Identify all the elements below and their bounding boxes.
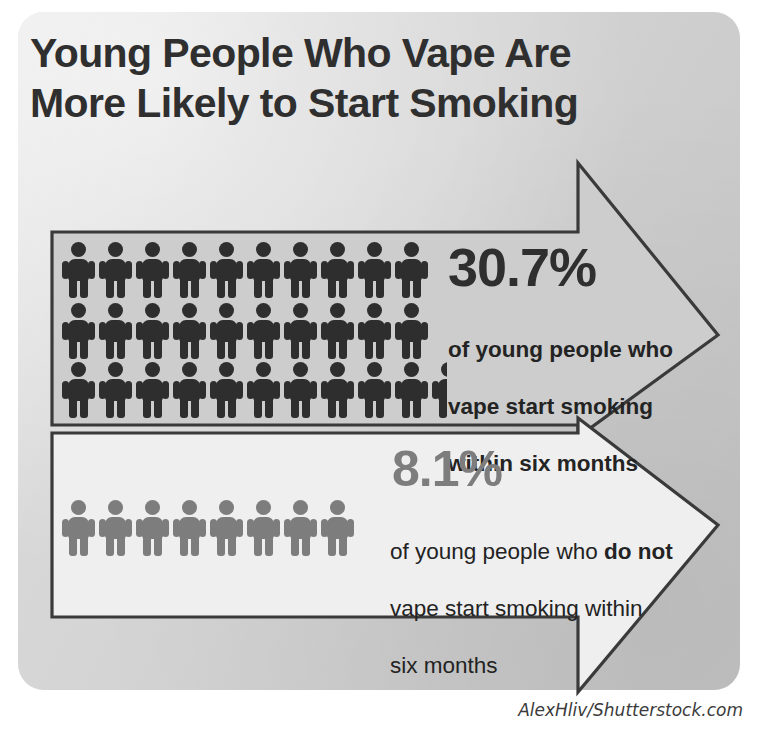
person-icon [134, 303, 171, 359]
page-title: Young People Who Vape Are More Likely to… [30, 28, 720, 129]
top-stat-value: 30.7% [448, 236, 596, 298]
person-icon [171, 500, 208, 556]
person-icon [319, 242, 356, 298]
top-desc-line-1: of young people who [448, 337, 673, 362]
person-icon [134, 362, 171, 418]
pictogram-row-dark-3 [60, 362, 447, 418]
person-icon [97, 303, 134, 359]
person-icon [134, 500, 171, 556]
bottom-desc-emphasis: do not [604, 539, 673, 564]
person-icon [134, 242, 171, 298]
person-icon [97, 362, 134, 418]
infographic-stage: Young People Who Vape Are More Likely to… [0, 0, 757, 732]
pictogram-row-dark-2 [60, 303, 430, 359]
pictogram-row-dark-1 [60, 242, 430, 298]
person-icon [356, 362, 393, 418]
person-icon [208, 242, 245, 298]
person-icon [60, 303, 97, 359]
person-icon [245, 362, 282, 418]
person-icon [319, 362, 356, 418]
person-icon [60, 500, 97, 556]
person-icon [97, 500, 134, 556]
person-icon [208, 303, 245, 359]
bottom-desc-prefix: of young people who [390, 539, 604, 564]
person-icon [356, 303, 393, 359]
bottom-desc-line-3: six months [390, 653, 498, 678]
person-icon [356, 242, 393, 298]
person-icon [97, 242, 134, 298]
person-icon [171, 303, 208, 359]
person-icon [208, 500, 245, 556]
person-icon [245, 500, 282, 556]
person-icon [393, 303, 430, 359]
image-credit: AlexHliv/Shutterstock.com [518, 700, 743, 720]
person-icon [319, 303, 356, 359]
person-icon [393, 362, 430, 418]
bottom-stat-value: 8.1% [392, 440, 502, 498]
person-icon [245, 242, 282, 298]
person-icon [282, 303, 319, 359]
person-icon [319, 500, 356, 556]
pictogram-row-light-1 [60, 500, 356, 556]
person-icon [393, 242, 430, 298]
person-icon-partial [430, 362, 447, 418]
person-icon [208, 362, 245, 418]
bottom-desc-line-2: vape start smoking within [390, 596, 643, 621]
person-icon [282, 242, 319, 298]
person-icon [60, 362, 97, 418]
bottom-stat-description: of young people who do not vape start sm… [390, 509, 690, 680]
person-icon [171, 242, 208, 298]
person-icon [282, 500, 319, 556]
person-icon [171, 362, 208, 418]
top-desc-line-2: vape start smoking [448, 394, 653, 419]
person-icon [245, 303, 282, 359]
person-icon [282, 362, 319, 418]
person-icon [60, 242, 97, 298]
